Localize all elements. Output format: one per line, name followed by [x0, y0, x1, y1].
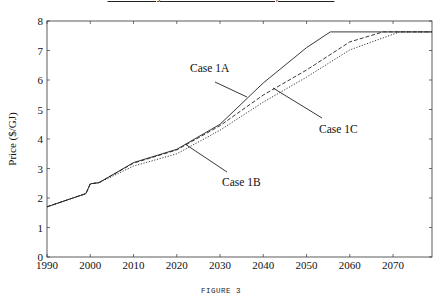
x-tick-label: 2030 [209, 259, 232, 271]
annotation-leader-line [185, 144, 227, 172]
y-tick-label: 8 [38, 15, 44, 27]
annotation-case-1c: Case 1C [319, 123, 358, 135]
annotation-case-1b: Case 1B [222, 176, 261, 188]
annotation-leader-line [273, 88, 322, 118]
y-tick-label: 0 [38, 251, 44, 263]
y-axis-title: Price ($/GJ) [6, 112, 19, 166]
annotation-case-1a: Case 1A [190, 62, 230, 74]
y-tick-label: 2 [38, 192, 44, 204]
plot-frame [47, 21, 432, 257]
x-tick-label: 2050 [296, 259, 319, 271]
y-tick-label: 1 [38, 222, 44, 234]
x-tick-label: 2000 [79, 259, 102, 271]
x-tick-label: 2060 [339, 259, 362, 271]
x-tick-label: 2020 [166, 259, 189, 271]
x-tick-label: 2010 [123, 259, 146, 271]
x-tick-label: 2040 [252, 259, 275, 271]
line-chart: 1990200020102020203020402050206020700123… [0, 0, 442, 303]
chart-annotations: Case 1ACase 1BCase 1C [185, 62, 358, 188]
y-tick-label: 3 [38, 163, 44, 175]
figure-caption: FIGURE 3 [0, 287, 442, 295]
chart-axes: 1990200020102020203020402050206020700123… [6, 15, 432, 271]
annotation-leader-line [215, 82, 247, 97]
y-tick-label: 6 [38, 74, 44, 86]
y-tick-label: 7 [38, 45, 44, 57]
y-tick-label: 4 [38, 133, 44, 145]
y-tick-label: 5 [38, 104, 44, 116]
x-tick-label: 2070 [382, 259, 405, 271]
